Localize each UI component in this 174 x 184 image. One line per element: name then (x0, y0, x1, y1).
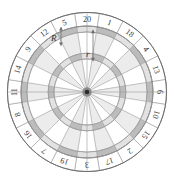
dartboard-svg: 2011841361015217319716811149125Rr (0, 0, 174, 184)
sector-number-label: 20 (83, 15, 91, 24)
radius-R-label: R (50, 33, 57, 43)
sector-number-label: 11 (10, 88, 19, 96)
sector-number-label: 6 (155, 90, 164, 94)
bullseye (85, 90, 90, 95)
dartboard-root: 2011841361015217319716811149125Rr (7, 12, 166, 171)
sector-number-label: 3 (85, 160, 89, 169)
radius-r-label: r (86, 49, 90, 59)
dartboard-figure: 2011841361015217319716811149125Rr (0, 0, 174, 184)
